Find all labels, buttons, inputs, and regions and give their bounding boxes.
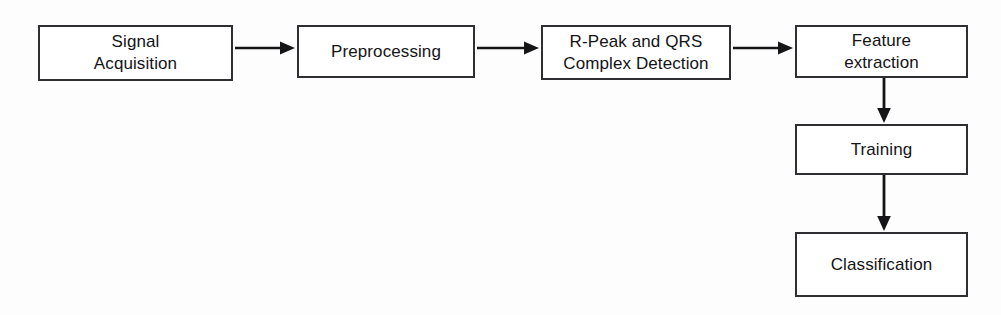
flow-node-classification[interactable]: Classification (795, 232, 968, 297)
flow-node-preprocessing-label: Preprocessing (325, 41, 447, 63)
flow-node-rpeak-qrs-detection-label: R-Peak and QRS Complex Detection (557, 31, 714, 75)
flow-arrow-rpeak-qrs-detection-to-feature-extraction (733, 38, 795, 58)
flow-arrow-preprocessing-to-rpeak-qrs-detection (477, 38, 541, 58)
flow-arrow-feature-extraction-to-training (874, 78, 894, 125)
flow-node-training-label: Training (845, 139, 919, 161)
flow-arrow-signal-acquisition-to-preprocessing (235, 38, 297, 58)
flow-node-rpeak-qrs-detection[interactable]: R-Peak and QRS Complex Detection (541, 25, 731, 80)
flowchart-canvas: Signal Acquisition Preprocessing R-Peak … (0, 0, 1001, 315)
flow-node-classification-label: Classification (825, 254, 939, 276)
flow-arrow-training-to-classification (874, 175, 894, 233)
flow-node-preprocessing[interactable]: Preprocessing (297, 25, 475, 78)
flow-node-feature-extraction[interactable]: Feature extraction (795, 25, 968, 78)
flow-node-feature-extraction-label: Feature extraction (838, 30, 925, 74)
flow-node-signal-acquisition[interactable]: Signal Acquisition (38, 25, 233, 81)
flow-node-training[interactable]: Training (795, 124, 968, 175)
flow-node-signal-acquisition-label: Signal Acquisition (88, 31, 183, 75)
